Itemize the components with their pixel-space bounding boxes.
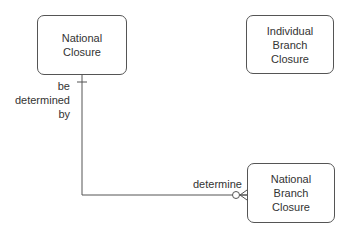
entity-label-line: Branch [267, 38, 313, 52]
entity-individual-branch-closure[interactable]: Individual Branch Closure [246, 15, 334, 74]
entity-national-branch-closure[interactable]: National Branch Closure [247, 163, 335, 223]
entity-label-line: National [271, 172, 311, 186]
from-label-line: be [15, 79, 70, 93]
entity-label-line: Branch [271, 186, 311, 200]
entity-label-line: Closure [62, 45, 102, 59]
from-label-line: by [15, 107, 70, 121]
relationship-from-label: be determined by [15, 79, 70, 121]
relationship-to-label: determine [193, 177, 242, 191]
zero-optional-circle-icon [233, 192, 240, 199]
entity-national-closure[interactable]: National Closure [37, 15, 127, 75]
entity-label-line: Individual [267, 24, 313, 38]
crows-foot-many-icon [240, 190, 247, 200]
entity-label-line: Closure [267, 52, 313, 66]
entity-label-line: Closure [271, 200, 311, 214]
from-label-line: determined [15, 93, 70, 107]
entity-label-line: National [62, 31, 102, 45]
